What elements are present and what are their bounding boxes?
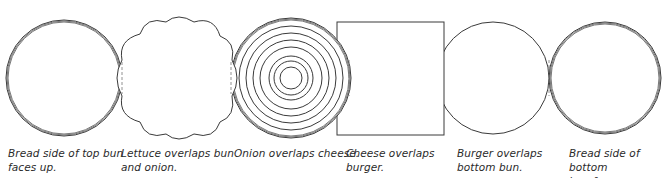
burger-layers-diagram — [0, 0, 665, 145]
caption-top-bun: Bread side of top bun faces up. — [8, 146, 123, 174]
lettuce-shape — [117, 17, 237, 139]
caption-onion: Onion overlaps cheese. — [234, 146, 359, 160]
caption-burger: Burger overlaps bottom bun. — [457, 146, 542, 174]
top-bun-shape — [6, 20, 122, 136]
cheese-shape — [337, 22, 444, 135]
bottom-bun-shape — [549, 22, 661, 134]
burger-shape — [437, 22, 549, 134]
caption-cheese: Cheese overlaps burger. — [346, 146, 435, 174]
caption-lettuce: Lettuce overlaps bun and onion. — [121, 146, 234, 174]
onion-shape — [231, 18, 351, 138]
caption-bottom-bun: Bread side of bottom bun faces up. — [569, 146, 665, 178]
